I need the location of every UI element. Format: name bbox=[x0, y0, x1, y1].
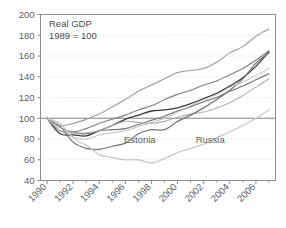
chart-subtitle: 1989 = 100 bbox=[49, 30, 97, 41]
xtick-label-2006: 2006 bbox=[235, 181, 258, 204]
ytick-label-200: 200 bbox=[19, 9, 35, 20]
series-line-slovenia bbox=[47, 51, 269, 132]
x-axis-labels: 199019921994199619982000200220042006 bbox=[26, 181, 258, 204]
chart-title: Real GDP bbox=[49, 18, 92, 29]
series-label-estonia: Estonia bbox=[124, 134, 156, 145]
series-layer bbox=[47, 29, 269, 163]
ytick-label-100: 100 bbox=[19, 113, 35, 124]
chart-title-block: Real GDP 1989 = 100 bbox=[49, 18, 97, 41]
series-line-estonia bbox=[47, 53, 269, 150]
series-line-poland bbox=[47, 29, 269, 126]
ytick-label-140: 140 bbox=[19, 71, 35, 82]
xtick-label-2002: 2002 bbox=[182, 181, 205, 204]
ytick-label-40: 40 bbox=[24, 175, 35, 186]
series-annotations: EstoniaRussia bbox=[124, 134, 226, 145]
chart-figure: 406080100120140160180200 199019921994199… bbox=[0, 0, 286, 228]
xtick-label-1994: 1994 bbox=[78, 181, 101, 204]
ytick-label-180: 180 bbox=[19, 30, 35, 41]
ytick-label-80: 80 bbox=[24, 133, 35, 144]
xtick-label-1992: 1992 bbox=[52, 181, 75, 204]
series-label-russia: Russia bbox=[196, 134, 226, 145]
ytick-label-60: 60 bbox=[24, 154, 35, 165]
y-axis-labels: 406080100120140160180200 bbox=[19, 9, 35, 186]
xtick-label-1996: 1996 bbox=[104, 181, 127, 204]
xtick-label-1998: 1998 bbox=[130, 181, 153, 204]
series-line-slovakia bbox=[47, 52, 269, 136]
series-line-czech-republic bbox=[47, 79, 269, 133]
real-gdp-line-chart: 406080100120140160180200 199019921994199… bbox=[0, 0, 286, 228]
xtick-label-2004: 2004 bbox=[208, 181, 231, 204]
ytick-label-120: 120 bbox=[19, 92, 35, 103]
xtick-label-2000: 2000 bbox=[156, 181, 179, 204]
ytick-label-160: 160 bbox=[19, 50, 35, 61]
